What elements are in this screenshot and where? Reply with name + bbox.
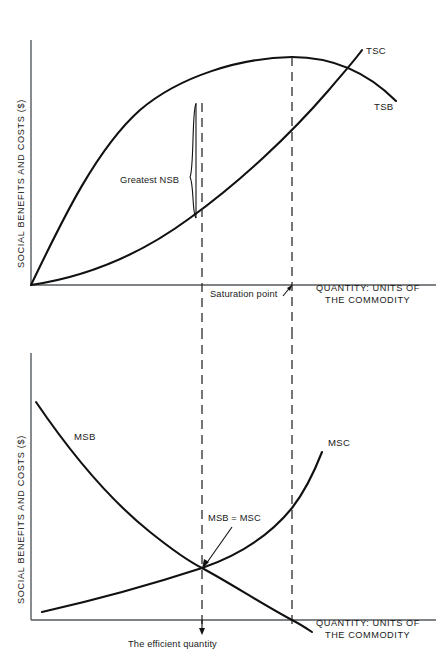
msb-equals-msc-label: MSB = MSC [208, 513, 261, 523]
msb-curve-label: MSB [74, 431, 96, 442]
msc-curve [42, 452, 322, 612]
tsb-curve [31, 57, 396, 285]
tsb-curve-label: TSB [374, 101, 394, 112]
total-panel-x-axis-title-line2: THE COMMODITY [325, 295, 410, 305]
total-panel-x-axis-title-line1: QUANTITY: UNITS OF [316, 283, 420, 293]
marginal-panel-x-axis-title-line2: THE COMMODITY [325, 630, 410, 640]
greatest-nsb-brace-icon [190, 104, 196, 218]
economics-figure: SOCIAL BENEFITS AND COSTS ($) Greatest N… [0, 0, 438, 653]
total-panel-y-axis-title: SOCIAL BENEFITS AND COSTS ($) [16, 99, 26, 268]
msc-curve-label: MSC [328, 437, 350, 448]
marginal-panel: SOCIAL BENEFITS AND COSTS ($) MSB = MSC … [16, 330, 436, 649]
saturation-point-label: Saturation point [210, 289, 278, 299]
saturation-point-arrow-icon [283, 285, 292, 296]
marginal-panel-x-axis-title-line1: QUANTITY: UNITS OF [316, 618, 420, 628]
efficient-quantity-label: The efficient quantity [128, 639, 217, 649]
efficient-quantity-arrow-icon [199, 620, 205, 635]
total-panel: SOCIAL BENEFITS AND COSTS ($) Greatest N… [16, 40, 436, 330]
marginal-panel-y-axis-title: SOCIAL BENEFITS AND COSTS ($) [16, 435, 26, 604]
greatest-nsb-label: Greatest NSB [120, 175, 179, 185]
figure-canvas: SOCIAL BENEFITS AND COSTS ($) Greatest N… [0, 0, 438, 653]
tsc-curve-label: TSC [366, 45, 386, 56]
